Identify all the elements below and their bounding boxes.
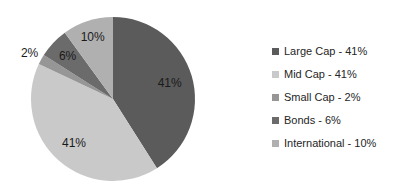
legend-swatch-icon — [272, 71, 279, 78]
legend-item: Small Cap - 2% — [272, 91, 376, 104]
pie-data-label: 41% — [158, 76, 182, 90]
legend-item: Large Cap - 41% — [272, 45, 376, 58]
legend-item: International - 10% — [272, 137, 376, 150]
legend-item: Mid Cap - 41% — [272, 68, 376, 81]
pie-chart: 41%41%2%6%10% — [0, 0, 240, 192]
legend-label: International - 10% — [284, 137, 376, 150]
pie-data-label: 10% — [81, 30, 105, 44]
pie-data-label: 2% — [21, 46, 39, 60]
legend-label: Bonds - 6% — [284, 114, 341, 127]
pie-data-label: 6% — [59, 49, 77, 63]
legend-label: Large Cap - 41% — [284, 45, 367, 58]
pie-data-label: 41% — [62, 136, 86, 150]
legend-label: Mid Cap - 41% — [284, 68, 357, 81]
legend: Large Cap - 41%Mid Cap - 41%Small Cap - … — [272, 45, 376, 160]
pie-chart-figure: 41%41%2%6%10% Large Cap - 41%Mid Cap - 4… — [0, 0, 398, 192]
legend-swatch-icon — [272, 140, 279, 147]
legend-item: Bonds - 6% — [272, 114, 376, 127]
legend-label: Small Cap - 2% — [284, 91, 360, 104]
legend-swatch-icon — [272, 117, 279, 124]
legend-swatch-icon — [272, 48, 279, 55]
legend-swatch-icon — [272, 94, 279, 101]
